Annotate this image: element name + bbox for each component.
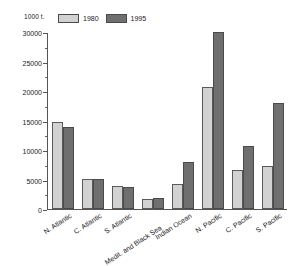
y-tick-major [43,151,47,152]
bar-group [48,32,78,209]
y-tick-label: 20000 [23,89,42,96]
legend-label-1995: 1995 [131,15,147,22]
bar-1995 [273,103,284,209]
y-axis-unit-label: 1000 t. [24,13,45,20]
y-tick-label: 0 [38,207,42,214]
y-tick-major [43,181,47,182]
y-tick-label: 30000 [23,30,42,37]
legend-swatch-1995-icon [106,14,127,23]
y-tick-major [43,210,47,211]
y-tick-minor [45,107,47,108]
x-axis-label: C. Atlantic [72,212,102,235]
y-tick-major [43,63,47,64]
bar-group [198,32,228,209]
y-tick-minor [45,48,47,49]
bar-1980 [142,199,153,209]
bar-group [138,32,168,209]
bar-1995 [123,187,134,209]
bar-1995 [213,32,224,209]
x-axis-label: S. Atlantic [102,212,132,235]
x-axis-label: S. Pacific [254,212,282,234]
bar-1980 [82,179,93,209]
y-tick-minor [45,77,47,78]
bar-group [108,32,138,209]
bar-1995 [63,127,74,209]
y-tick-label: 25000 [23,59,42,66]
x-axis-category-labels: N. AtlanticC. AtlanticS. AtlanticMedit. … [47,212,287,266]
legend-label-1980: 1980 [83,15,99,22]
y-tick-major [43,122,47,123]
bar-chart-figure: 1000 t. 1980 1995 0500010000150002000025… [0,0,298,266]
bar-group [258,32,288,209]
bar-1995 [93,179,104,209]
plot-area: 050001000015000200002500030000 [47,33,287,210]
chart-legend: 1980 1995 [58,14,146,23]
legend-entry-1980: 1980 [58,14,99,23]
bar-1995 [243,146,254,209]
bar-group [78,32,108,209]
bar-1980 [262,166,273,209]
y-tick-minor [45,136,47,137]
bar-1980 [232,170,243,209]
bar-1980 [202,87,213,209]
y-tick-label: 15000 [23,118,42,125]
y-tick-minor [45,195,47,196]
bar-1995 [153,198,164,209]
bar-1980 [52,122,63,209]
bar-group [228,32,258,209]
bar-1995 [183,162,194,209]
y-tick-major [43,33,47,34]
bar-1980 [112,186,123,209]
x-axis-label: N. Pacific [194,212,223,234]
bar-1980 [172,184,183,209]
x-axis-line [47,209,287,210]
y-tick-label: 10000 [23,148,42,155]
legend-entry-1995: 1995 [106,14,147,23]
bar-series-container [48,33,287,209]
bar-group [168,32,198,209]
legend-swatch-1980-icon [58,14,79,23]
x-axis-label: C. Pacific [224,212,253,234]
x-axis-label: N. Atlantic [42,212,72,235]
y-tick-minor [45,166,47,167]
y-tick-label: 5000 [26,177,42,184]
y-tick-major [43,92,47,93]
